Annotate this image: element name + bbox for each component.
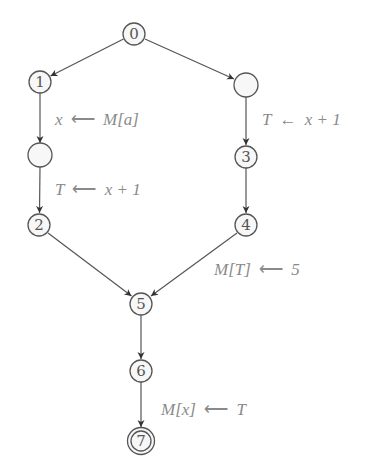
- node-6: 6: [130, 360, 152, 382]
- edge-label-store-Mx-T: M[x] ⟵ T: [160, 400, 247, 419]
- node-1: 1: [29, 71, 51, 93]
- node-6-label: 6: [136, 362, 146, 380]
- node-1-label: 1: [35, 73, 45, 91]
- node-4-label: 4: [241, 216, 251, 234]
- node-3: 3: [235, 146, 257, 168]
- node-5: 5: [130, 293, 152, 315]
- node-5-label: 5: [136, 295, 146, 313]
- node-0-label: 0: [129, 25, 139, 43]
- node-0: 0: [123, 23, 145, 45]
- node-unlabeled-left: [28, 143, 52, 167]
- node-2-label: 2: [34, 216, 44, 234]
- edge-2-5: [48, 233, 132, 296]
- edge-label-T-assign-x-plus-1-left: T ⟵ x + 1: [55, 180, 141, 199]
- nodes: 0 1 2 3 4 5 6: [28, 23, 258, 455]
- node-2: 2: [28, 214, 50, 236]
- node-3-label: 3: [241, 148, 251, 166]
- edge-labels: x ⟵ M[a] T ⟵ x + 1 T ← x + 1 M[T] ⟵ 5 M[…: [54, 110, 341, 419]
- node-7-label: 7: [136, 432, 146, 450]
- node-unlabeled-right: [234, 73, 258, 97]
- control-flow-graph: 0 1 2 3 4 5 6: [0, 0, 373, 472]
- edge-label-x-load-Ma: x ⟵ M[a]: [54, 110, 139, 129]
- edge-0-1: [51, 39, 124, 76]
- edge-0-b: [145, 39, 234, 79]
- edge-label-T-assign-x-plus-1-right: T ← x + 1: [262, 110, 341, 129]
- node-4: 4: [235, 214, 257, 236]
- edge-label-store-MT-5: M[T] ⟵ 5: [213, 260, 300, 279]
- edge-a-2: [40, 167, 41, 213]
- node-7-accepting: 7: [128, 428, 155, 455]
